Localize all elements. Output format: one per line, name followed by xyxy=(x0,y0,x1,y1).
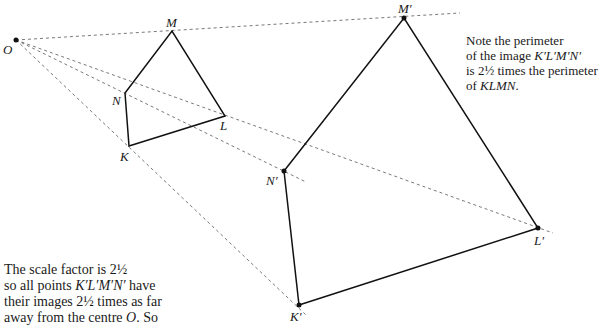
shape-klmn xyxy=(125,31,225,146)
label-l: L xyxy=(220,119,227,132)
label-m-prime: M′ xyxy=(398,2,412,15)
ray-n xyxy=(16,40,306,182)
ray-m xyxy=(16,13,460,40)
label-n: N xyxy=(112,94,121,107)
perimeter-note: Note the perimeter of the image K′L′M′N′… xyxy=(466,33,598,93)
scale-factor-note: The scale factor is 2½ so all points K′L… xyxy=(4,262,162,326)
label-o: O xyxy=(3,43,12,56)
centre-point xyxy=(14,38,19,43)
label-n-prime: N′ xyxy=(266,174,278,187)
label-l-prime: L′ xyxy=(534,234,544,247)
label-m: M xyxy=(166,16,177,29)
label-k: K xyxy=(120,150,129,163)
label-k-prime: K′ xyxy=(290,310,302,323)
